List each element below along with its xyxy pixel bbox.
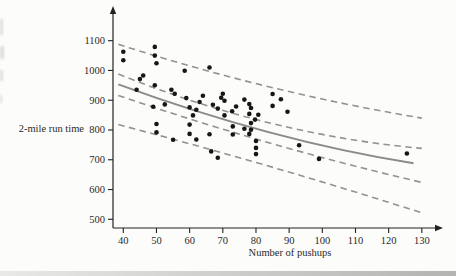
data-point [279,97,284,102]
data-point [194,107,199,112]
data-point [151,105,156,110]
x-tick-label: 130 [414,235,430,246]
regression-line [118,84,413,163]
data-point [194,137,199,142]
data-point [216,155,221,160]
data-point [153,53,158,58]
x-tick-label: 70 [218,235,229,246]
data-point [163,102,168,107]
data-point [222,113,227,118]
data-points [121,45,409,162]
data-point [254,152,259,157]
x-tick-label: 40 [118,235,129,246]
y-axis-title: 2-mile run time [19,123,85,134]
data-point [154,130,159,135]
data-point [197,100,202,105]
data-point [234,104,239,109]
x-tick-label: 110 [348,235,363,246]
data-point [201,94,206,99]
data-point [242,127,247,132]
prediction-band-lower [118,125,422,213]
x-tick-label: 60 [184,235,195,246]
x-tick-label: 80 [251,235,262,246]
data-point [153,45,158,50]
data-point [138,77,143,82]
x-tick-label: 50 [151,235,162,246]
data-point [121,49,126,54]
y-tick-label: 1100 [84,35,105,46]
data-point [297,143,302,148]
data-point [209,149,214,154]
x-tick-label: 90 [284,235,295,246]
data-point [249,127,254,132]
axes [110,6,443,231]
confidence-band-lower [118,96,422,183]
x-axis-arrowhead [435,225,443,231]
data-point [247,132,252,137]
y-tick-label: 800 [89,124,105,135]
data-point [154,61,159,66]
prediction-band-upper [118,44,422,118]
data-point [231,124,236,129]
data-point [141,73,146,78]
x-axis-title: Number of pushups [249,247,332,258]
page-edge-artifact [0,271,456,276]
y-tick-label: 600 [89,184,105,195]
band-lines [118,44,422,213]
data-point [254,139,259,144]
page-scan-artifact [0,46,4,59]
page-scan-artifact [0,95,2,103]
data-point [253,117,258,122]
data-point [216,106,221,111]
data-point [222,99,227,104]
regression-line-group [118,84,413,163]
data-point [270,104,275,109]
data-point [207,132,212,137]
data-point [187,132,192,137]
data-point [317,157,322,162]
y-tick-label: 700 [89,154,105,165]
plot-canvas: 5006007008009001000110040506070809010011… [0,0,456,276]
data-point [231,132,236,137]
data-point [191,113,196,118]
data-point [172,91,177,96]
x-tick-label: 100 [314,235,330,246]
data-point [187,105,192,110]
data-point [249,121,254,126]
y-tick-label: 1000 [84,65,105,76]
data-point [230,109,235,114]
data-point [171,138,176,143]
data-point [256,113,261,118]
y-tick-label: 900 [89,95,105,106]
data-point [405,151,410,156]
data-point [270,92,275,97]
page-scan-artifact [0,70,3,81]
y-axis-arrowhead [110,6,116,14]
tick-marks [108,41,422,233]
data-point [247,112,252,117]
data-point [134,88,139,93]
data-point [254,146,259,151]
data-point [169,88,174,93]
data-point [211,102,216,107]
data-point [153,83,158,88]
data-point [182,68,187,73]
data-point [154,122,159,127]
data-point [285,110,290,115]
data-point [242,97,247,102]
data-point [121,58,126,63]
x-tick-label: 120 [381,235,397,246]
page-scan-artifact [0,19,3,35]
data-point [187,122,192,127]
data-point [207,65,212,70]
data-point [184,96,189,101]
scatter-plot-figure: 5006007008009001000110040506070809010011… [0,0,456,276]
y-tick-label: 500 [89,214,105,225]
data-point [221,91,226,96]
data-point [249,106,254,111]
